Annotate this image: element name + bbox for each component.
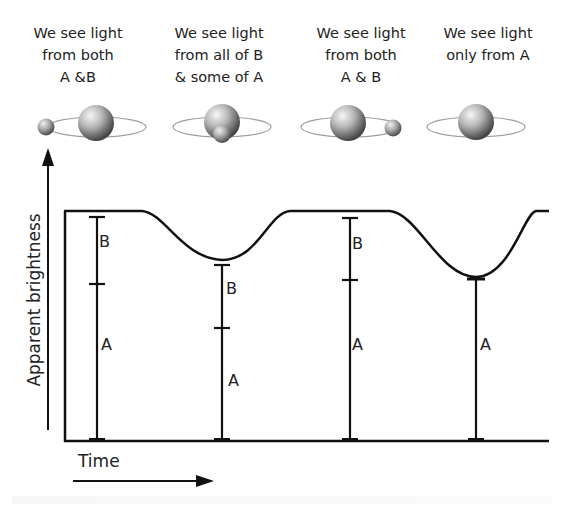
- brightness-bar-4: A: [467, 279, 491, 442]
- binary-system-phase-3: [301, 105, 402, 141]
- time-arrow-icon: [73, 475, 214, 487]
- star-b-icon: [385, 120, 402, 137]
- star-b-icon: [38, 119, 55, 136]
- binary-system-phase-1: [38, 105, 147, 141]
- segment-label-a: A: [480, 335, 491, 354]
- segment-label-b: B: [352, 234, 363, 253]
- segment-label-a: A: [101, 335, 112, 354]
- brightness-bar-2: B A: [214, 265, 239, 442]
- star-a-icon: [458, 104, 494, 140]
- segment-label-b: B: [226, 279, 237, 298]
- segment-label-a: A: [228, 371, 239, 390]
- segment-label-b: B: [99, 232, 110, 251]
- y-axis-label: Apparent brightness: [24, 213, 44, 386]
- star-a-icon: [330, 105, 366, 141]
- binary-system-phase-2: [173, 104, 271, 143]
- light-curve-diagram: B A B A B A A: [0, 0, 571, 508]
- segment-label-a: A: [352, 335, 363, 354]
- star-a-icon: [78, 105, 114, 141]
- binary-system-phase-4: [427, 104, 525, 140]
- x-axis-label: Time: [78, 451, 120, 471]
- brightness-bar-1: B A: [89, 217, 112, 442]
- brightness-bar-3: B A: [342, 218, 363, 442]
- star-b-icon: [213, 125, 231, 143]
- faint-caption-residue: [12, 496, 552, 504]
- light-curve: [64, 211, 549, 277]
